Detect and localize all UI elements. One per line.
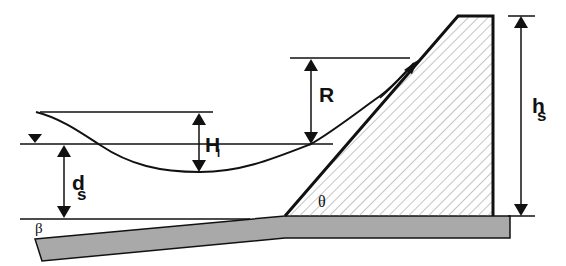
structure-height-dimension: h s — [508, 16, 546, 216]
structure-slope-angle-label: θ — [318, 193, 326, 210]
foundation-base — [35, 216, 510, 261]
structure-height-subscript: s — [537, 106, 546, 125]
beach-slope-angle-label: β — [35, 220, 43, 236]
runup-label: R — [319, 83, 334, 106]
seawall-structure — [285, 16, 493, 216]
wave-height-subscript: I — [217, 147, 220, 159]
water-depth-dimension: d s — [57, 145, 86, 218]
seawall-diagram: H I R d s h s β θ — [0, 0, 566, 266]
wave-height-dimension: H I — [192, 113, 220, 172]
water-depth-subscript: s — [77, 185, 86, 204]
still-water-level-icon — [28, 134, 42, 143]
